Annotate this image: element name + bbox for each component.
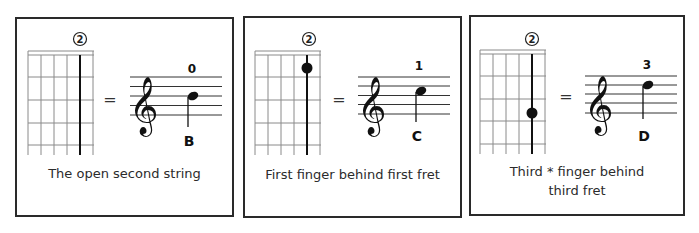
diagram-panel-2: 2 = 𝄞 1 C bbox=[245, 18, 464, 220]
panel-caption: Third * finger behind third fret bbox=[471, 162, 683, 200]
treble-clef-icon: 𝄞 bbox=[357, 76, 387, 137]
fret-dot bbox=[302, 63, 313, 74]
note-name-label: C bbox=[412, 128, 422, 144]
panel-first-finger-first-fret: 2 = 𝄞 1 C bbox=[243, 16, 462, 218]
svg-text:2: 2 bbox=[306, 34, 313, 45]
string-number-marker: 2 bbox=[526, 33, 539, 46]
note-name-label: B bbox=[184, 133, 195, 149]
treble-clef-icon: 𝄞 bbox=[584, 75, 614, 136]
svg-text:2: 2 bbox=[77, 34, 84, 45]
panel-caption: The open second string bbox=[17, 164, 232, 183]
fretboard-diagram bbox=[28, 51, 94, 155]
note-name-label: D bbox=[638, 128, 650, 144]
string-number-marker: 2 bbox=[303, 33, 316, 46]
fret-dot bbox=[527, 108, 538, 119]
fretboard-diagram bbox=[480, 50, 546, 154]
diagram-panel-1: 2 = 𝄞 bbox=[17, 19, 236, 219]
equals-sign: = bbox=[103, 90, 116, 109]
string-number-marker: 2 bbox=[74, 33, 87, 46]
equals-sign: = bbox=[332, 90, 345, 109]
equals-sign: = bbox=[559, 87, 572, 106]
panel-caption: First finger behind first fret bbox=[245, 165, 460, 184]
fingering-number: 3 bbox=[643, 58, 651, 72]
treble-clef-icon: 𝄞 bbox=[129, 76, 159, 137]
panel-third-finger-third-fret: 2 = 𝄞 3 D bbox=[469, 15, 685, 216]
fingering-number: 1 bbox=[415, 59, 423, 73]
panel-open-second-string: 2 = 𝄞 bbox=[15, 17, 234, 217]
note-b bbox=[186, 90, 199, 127]
note-c bbox=[414, 85, 427, 122]
svg-text:2: 2 bbox=[529, 34, 536, 45]
fingering-number: 0 bbox=[188, 62, 196, 76]
